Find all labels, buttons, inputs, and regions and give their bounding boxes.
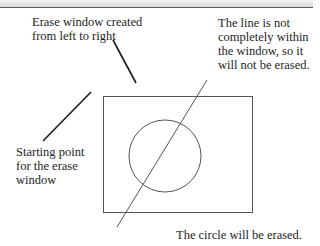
erase-window-rectangle — [104, 97, 253, 213]
circle-note-label-line-1: The circle will be erased. — [176, 228, 302, 242]
starting-point-label-line-3: window — [16, 173, 84, 187]
line-note-label-line-4: will not be erased. — [218, 58, 310, 72]
line-note-label: The line is not completely within the wi… — [218, 16, 310, 72]
pointer-line-erase-window — [113, 40, 136, 83]
line-note-label-line-1: The line is not — [218, 16, 310, 30]
erase-window-label-line-1: Erase window created — [32, 15, 142, 29]
starting-point-label-line-1: Starting point — [16, 145, 84, 159]
diagonal-line-shape — [117, 80, 207, 227]
pointer-line-starting-point — [43, 92, 91, 141]
circle-shape — [129, 120, 201, 192]
line-note-label-line-3: the window, so it — [218, 44, 310, 58]
starting-point-label-line-2: for the erase — [16, 159, 84, 173]
erase-window-label: Erase window created from left to right — [32, 15, 142, 43]
circle-note-label: The circle will be erased. — [176, 228, 302, 242]
starting-point-label: Starting point for the erase window — [16, 145, 84, 187]
erase-window-label-line-2: from left to right — [32, 29, 142, 43]
line-note-label-line-2: completely within — [218, 30, 310, 44]
